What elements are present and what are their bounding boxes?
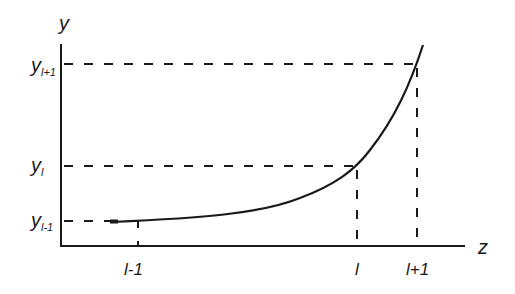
y-axis-label: y <box>57 12 70 34</box>
exponential-curve <box>112 45 423 222</box>
x-tick-l-plus-1: l+1 <box>406 260 429 279</box>
curve-start-marker <box>110 220 118 224</box>
x-tick-l-minus-1: l-1 <box>124 260 143 279</box>
x-tick-l: l <box>355 260 360 279</box>
x-axis-label: z <box>477 236 488 258</box>
exponential-curve-diagram: y z yl+1 yl yl-1 l-1 l l+1 <box>0 0 515 294</box>
y-tick-l: yl <box>29 154 44 178</box>
y-tick-l-minus-1: yl-1 <box>29 209 53 233</box>
y-tick-l-plus-1: yl+1 <box>29 54 56 78</box>
